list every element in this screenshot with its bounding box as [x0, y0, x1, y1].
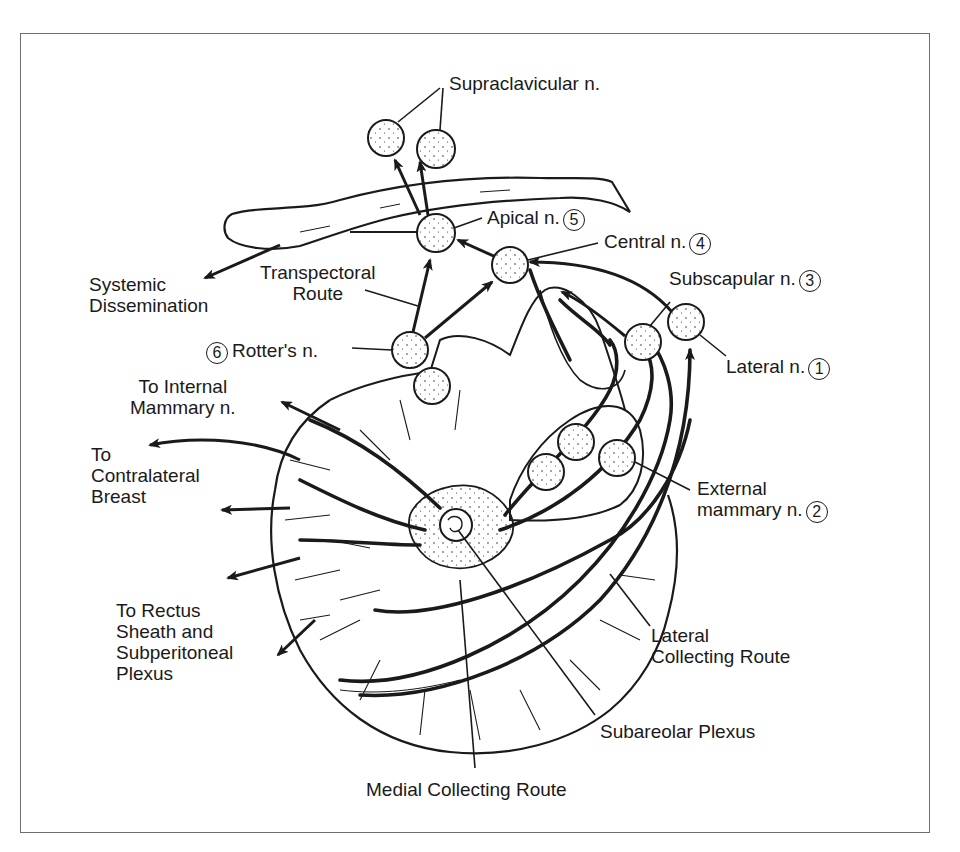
- label-systemic-dissemination: Systemic Dissemination: [89, 274, 208, 316]
- label-lateral-collecting-line2: Collecting Route: [651, 646, 790, 667]
- label-central: Central n.4: [604, 231, 711, 255]
- label-external-mammary: External mammary n.2: [697, 478, 828, 523]
- label-systemic-line1: Systemic: [89, 274, 208, 295]
- label-rectus-line2: Sheath and: [116, 621, 233, 642]
- label-transpectoral-route: Transpectoral Route: [260, 262, 375, 304]
- label-subareolar-plexus: Subareolar Plexus: [600, 721, 755, 742]
- label-transpectoral-line2: Route: [260, 283, 375, 304]
- subscapular-number-badge: 3: [799, 270, 821, 292]
- nipple: [440, 509, 472, 541]
- breast-lymphatic-diagram: [0, 0, 960, 852]
- label-contralateral-breast: To Contralateral Breast: [91, 444, 200, 507]
- label-lateral-text: Lateral n.: [726, 356, 805, 377]
- central-number-badge: 4: [689, 233, 711, 255]
- label-supraclavicular: Supraclavicular n.: [449, 73, 600, 94]
- areola: [409, 485, 513, 568]
- label-medial-collecting-route: Medial Collecting Route: [366, 779, 567, 800]
- label-contralateral-line1: To: [91, 444, 200, 465]
- label-external-mammary-line2: mammary n.: [697, 499, 803, 520]
- label-lateral-collecting-line1: Lateral: [651, 625, 790, 646]
- label-contralateral-line3: Breast: [91, 486, 200, 507]
- label-subscapular-text: Subscapular n.: [669, 268, 796, 289]
- label-rectus-line3: Subperitoneal: [116, 642, 233, 663]
- label-external-mammary-line1: External: [697, 478, 828, 499]
- label-internal-mammary-line1: To Internal: [130, 376, 236, 397]
- label-lateral-collecting-route: Lateral Collecting Route: [651, 625, 790, 667]
- label-rotters: 6Rotter's n.: [206, 340, 318, 364]
- label-subscapular: Subscapular n.3: [669, 268, 821, 292]
- label-apical: Apical n.5: [487, 207, 585, 231]
- label-apical-text: Apical n.: [487, 207, 560, 228]
- apical-number-badge: 5: [563, 209, 585, 231]
- label-internal-mammary-line2: Mammary n.: [130, 397, 236, 418]
- lateral-number-badge: 1: [808, 358, 830, 380]
- label-rectus-sheath: To Rectus Sheath and Subperitoneal Plexu…: [116, 600, 233, 684]
- arrow-contralateral-2: [222, 508, 290, 510]
- rotters-number-badge: 6: [206, 342, 228, 364]
- label-lateral: Lateral n.1: [726, 356, 830, 380]
- label-rectus-line4: Plexus: [116, 663, 233, 684]
- label-contralateral-line2: Contralateral: [91, 465, 200, 486]
- label-internal-mammary: To Internal Mammary n.: [130, 376, 236, 418]
- label-systemic-line2: Dissemination: [89, 295, 208, 316]
- label-transpectoral-line1: Transpectoral: [260, 262, 375, 283]
- label-rotters-text: Rotter's n.: [232, 340, 318, 361]
- external-mammary-number-badge: 2: [806, 501, 828, 523]
- label-central-text: Central n.: [604, 231, 686, 252]
- label-rectus-line1: To Rectus: [116, 600, 233, 621]
